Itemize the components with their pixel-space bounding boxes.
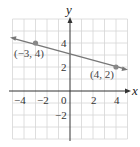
line-arrow-left-icon (10, 36, 17, 41)
x-axis-arrow-icon (125, 89, 131, 94)
x-tick-m4: −4 (14, 94, 26, 106)
x-tick-2: 2 (91, 94, 97, 106)
y-tick-4: 4 (61, 37, 67, 49)
x-tick-4: 4 (114, 94, 120, 106)
x-tick-m2: −2 (37, 94, 49, 106)
x-axis-label: x (131, 83, 138, 98)
y-axis-label: y (64, 2, 72, 17)
coordinate-plane: x y −4 −2 0 2 4 4 2 −2 (−3, 4) (4, 2) (0, 0, 140, 147)
point-4-2 (113, 64, 118, 69)
y-axis-arrow-icon (68, 17, 73, 23)
x-tick-0: 0 (61, 94, 67, 106)
point-label-neg3-4: (−3, 4) (14, 47, 44, 60)
point-label-4-2: (4, 2) (90, 68, 114, 81)
point-neg3-4 (33, 40, 38, 45)
y-tick-m2: −2 (55, 109, 67, 121)
y-tick-2: 2 (61, 61, 67, 73)
